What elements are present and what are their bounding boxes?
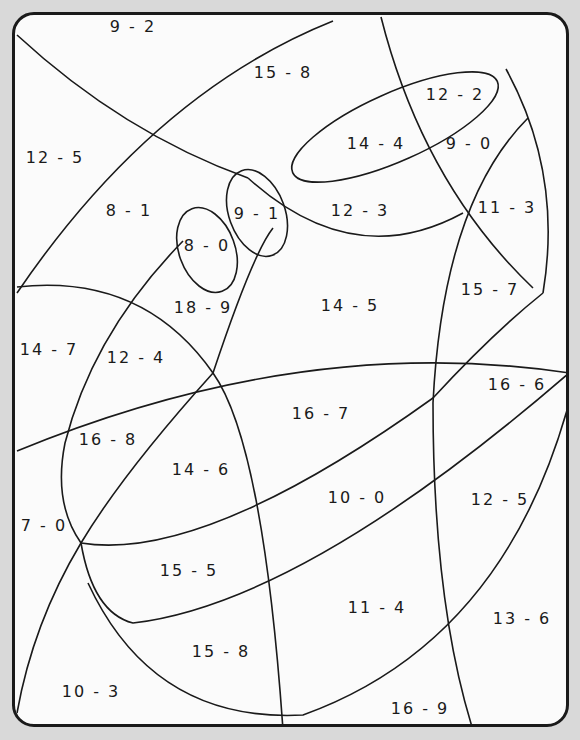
region-label[interactable]: 9 - 2 — [110, 17, 156, 36]
outline-curve — [61, 241, 183, 543]
region-label[interactable]: 13 - 6 — [493, 609, 551, 628]
region-label[interactable]: 14 - 6 — [172, 460, 230, 479]
region-label[interactable]: 15 - 7 — [461, 280, 519, 299]
region-label[interactable]: 15 - 5 — [160, 561, 218, 580]
region-label[interactable]: 16 - 9 — [391, 699, 449, 718]
region-label[interactable]: 14 - 7 — [20, 340, 78, 359]
region-label[interactable]: 16 - 7 — [292, 404, 350, 423]
region-label[interactable]: 10 - 3 — [62, 682, 120, 701]
region-label[interactable]: 15 - 8 — [254, 63, 312, 82]
region-label[interactable]: 11 - 4 — [348, 598, 406, 617]
region-label[interactable]: 7 - 0 — [21, 516, 67, 535]
region-label[interactable]: 11 - 3 — [478, 198, 536, 217]
region-label[interactable]: 14 - 5 — [321, 296, 379, 315]
outline-drawing — [15, 15, 569, 727]
region-label[interactable]: 12 - 4 — [107, 348, 165, 367]
region-label[interactable]: 13 - 6 — [474, 12, 532, 19]
region-label[interactable]: 9 - 0 — [446, 134, 492, 153]
region-label[interactable]: 16 - 6 — [488, 375, 546, 394]
region-label[interactable]: 15 - 8 — [192, 642, 250, 661]
region-label[interactable]: 12 - 5 — [26, 148, 84, 167]
region-label[interactable]: 8 - 0 — [184, 236, 230, 255]
outline-curve — [506, 69, 548, 293]
region-label[interactable]: 9 - 1 — [234, 204, 280, 223]
region-label[interactable]: 12 - 2 — [426, 85, 484, 104]
region-label[interactable]: 16 - 8 — [79, 430, 137, 449]
region-label[interactable]: 18 - 9 — [174, 298, 232, 317]
outline-ellipse — [279, 50, 511, 203]
region-label[interactable]: 12 - 5 — [471, 490, 529, 509]
outline-curve — [88, 403, 569, 715]
region-label[interactable]: 10 - 0 — [328, 488, 386, 507]
region-label[interactable]: 8 - 1 — [106, 201, 152, 220]
worksheet-frame: 9 - 2 13 - 6 15 - 8 12 - 2 12 - 5 14 - 4… — [12, 12, 569, 727]
region-label[interactable]: 14 - 4 — [347, 134, 405, 153]
outline-curve — [17, 373, 213, 713]
region-label[interactable]: 12 - 3 — [331, 201, 389, 220]
